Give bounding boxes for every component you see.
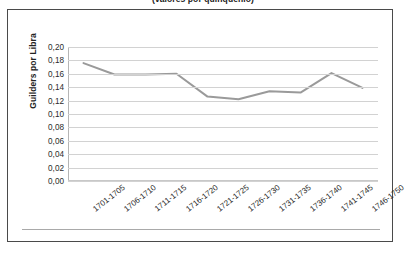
y-axis-tick-label: 0,12 <box>30 96 64 105</box>
y-axis-tick-label: 0,06 <box>30 136 64 145</box>
y-axis-tick-label: 0,00 <box>30 177 64 186</box>
y-axis-tick-label: 0,14 <box>30 83 64 92</box>
y-axis-tick-label: 0,08 <box>30 123 64 132</box>
figure-frame: Guilders por Libra 0,200,180,160,140,120… <box>7 9 393 242</box>
gridline <box>68 47 378 48</box>
x-axis-tick-label: 1721-1725 <box>215 183 251 214</box>
gridline <box>68 181 378 182</box>
y-axis-tick-label: 0,18 <box>30 56 64 65</box>
series-polyline <box>84 63 363 99</box>
x-axis-baseline <box>22 229 380 230</box>
x-axis-tick-label: 1701-1705 <box>91 183 127 214</box>
y-axis-tick-label: 0,10 <box>30 110 64 119</box>
y-axis-tick-label: 0,02 <box>30 163 64 172</box>
x-axis-tick-label: 1741-1745 <box>339 183 375 214</box>
x-axis-tick-label: 1726-1730 <box>246 183 282 214</box>
figure-caption: (valores por quinquenio) <box>0 0 406 6</box>
plot-area <box>68 47 378 181</box>
line-chart: Guilders por Libra 0,200,180,160,140,120… <box>8 10 394 243</box>
gridline <box>68 87 378 88</box>
gridline <box>68 141 378 142</box>
gridline <box>68 168 378 169</box>
x-axis-tick-label: 1706-1710 <box>122 183 158 214</box>
gridline <box>68 127 378 128</box>
y-axis-tick-label: 0,20 <box>30 43 64 52</box>
x-axis-tick-label: 1711-1715 <box>152 183 187 213</box>
y-axis-tick-labels: 0,200,180,160,140,120,100,080,060,040,02… <box>30 38 64 178</box>
x-axis-tick-label: 1746-1750 <box>370 183 406 214</box>
x-axis-tick-label: 1736-1740 <box>308 183 344 214</box>
x-axis-tick-label: 1731-1735 <box>277 183 313 214</box>
gridline <box>68 74 378 75</box>
y-axis-tick-label: 0,04 <box>30 150 64 159</box>
gridline <box>68 60 378 61</box>
gridline <box>68 154 378 155</box>
x-axis-tick-label: 1716-1720 <box>184 183 220 214</box>
gridline <box>68 114 378 115</box>
gridline <box>68 101 378 102</box>
y-axis-tick-label: 0,16 <box>30 69 64 78</box>
